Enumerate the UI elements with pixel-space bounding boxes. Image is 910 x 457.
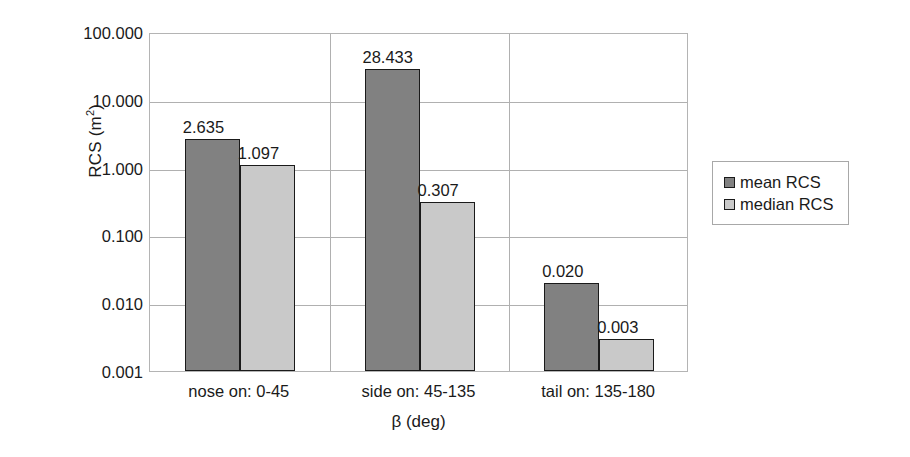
legend-item-label: mean RCS [740, 174, 821, 191]
x-axis-tick-label: tail on: 135-180 [508, 382, 688, 401]
x-axis-tick-label: nose on: 0-45 [149, 382, 329, 401]
legend-swatch-icon [724, 177, 735, 188]
y-axis-tick-label: 0.010 [51, 296, 143, 312]
bar-value-label: 1.097 [238, 145, 279, 162]
bar-median-rcs[interactable] [240, 165, 295, 371]
category-separator-line [330, 34, 331, 371]
legend-item[interactable]: median RCS [724, 193, 834, 215]
y-axis-tick-label: 1.000 [51, 161, 143, 177]
x-axis-title: β (deg) [149, 412, 688, 432]
bar-value-label: 0.307 [418, 182, 459, 199]
bar-value-label: 28.433 [363, 49, 413, 66]
y-axis-tick-label: 0.001 [51, 364, 143, 380]
bar-mean-rcs[interactable] [185, 139, 240, 371]
bar-mean-rcs[interactable] [544, 283, 599, 371]
y-axis-tick-labels: 100.00010.0001.0000.1000.0100.001 [48, 0, 143, 457]
bar-median-rcs[interactable] [420, 202, 475, 371]
chart-legend: mean RCSmedian RCS [712, 161, 849, 225]
plot-area: 2.6351.09728.4330.3070.0200.003 [149, 33, 688, 372]
chart-figure: RCS (m2) 100.00010.0001.0000.1000.0100.0… [0, 0, 910, 457]
y-axis-tick-label: 100.000 [51, 25, 143, 41]
y-axis-tick-label: 10.000 [51, 93, 143, 109]
bar-value-label: 0.020 [542, 263, 583, 280]
bar-value-label: 0.003 [597, 319, 638, 336]
bar-mean-rcs[interactable] [365, 69, 420, 371]
bar-median-rcs[interactable] [599, 339, 654, 371]
category-separator-line [509, 34, 510, 371]
x-axis-tick-label: side on: 45-135 [329, 382, 509, 401]
y-axis-tick-label: 0.100 [51, 228, 143, 244]
legend-swatch-icon [724, 199, 735, 210]
legend-item-label: median RCS [740, 196, 834, 213]
bar-value-label: 2.635 [183, 119, 224, 136]
legend-item[interactable]: mean RCS [724, 171, 834, 193]
